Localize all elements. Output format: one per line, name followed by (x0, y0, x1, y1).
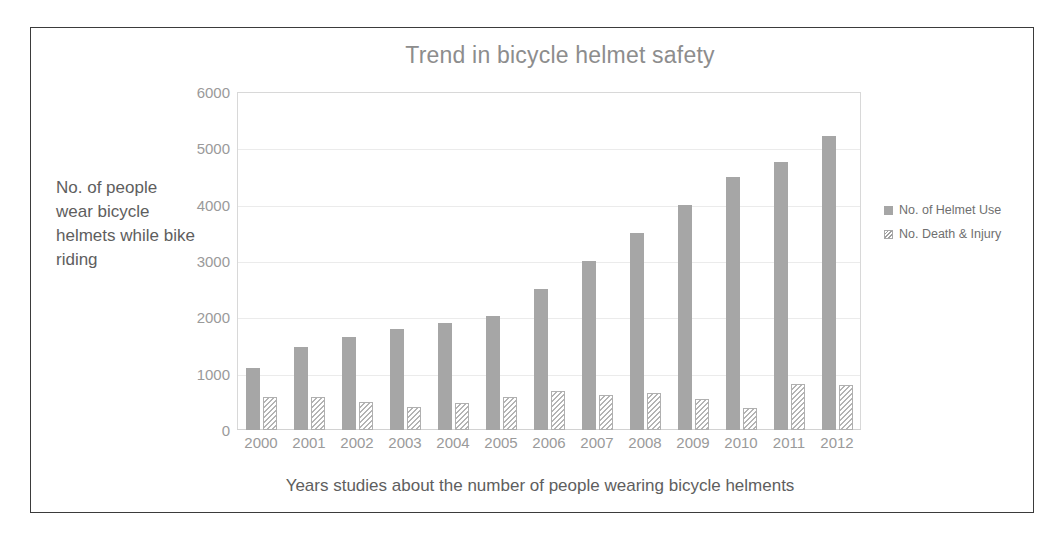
bar-death-injury[interactable] (695, 399, 709, 430)
x-axis-tick-label: 2002 (333, 434, 381, 451)
bar-helmet-use[interactable] (678, 205, 692, 430)
x-axis-tick-label: 2003 (381, 434, 429, 451)
bar-group (813, 92, 861, 430)
y-axis-tick-label: 2000 (184, 309, 230, 326)
bar-helmet-use[interactable] (390, 329, 404, 430)
bar-helmet-use[interactable] (246, 368, 260, 430)
bar-death-injury[interactable] (647, 393, 661, 430)
x-axis-tick-label: 2012 (813, 434, 861, 451)
chart-page: Trend in bicycle helmet safety 010002000… (0, 0, 1064, 546)
bars-layer (237, 92, 861, 430)
bar-death-injury[interactable] (791, 384, 805, 430)
solid-gray-swatch-icon (884, 206, 893, 215)
x-axis-tick-labels: 2000200120022003200420052006200720082009… (237, 434, 861, 458)
y-axis-tick-label: 5000 (184, 140, 230, 157)
x-axis-tick-label: 2005 (477, 434, 525, 451)
bar-helmet-use[interactable] (774, 162, 788, 430)
bar-death-injury[interactable] (599, 395, 613, 430)
bar-group (333, 92, 381, 430)
bar-helmet-use[interactable] (294, 347, 308, 430)
bar-group (285, 92, 333, 430)
x-axis-tick-label: 2000 (237, 434, 285, 451)
bar-helmet-use[interactable] (486, 316, 500, 430)
x-axis-title: Years studies about the number of people… (180, 476, 900, 496)
bar-death-injury[interactable] (503, 397, 517, 430)
bar-group (237, 92, 285, 430)
legend-item-label: No. of Helmet Use (899, 203, 1001, 217)
y-axis-tick-label: 0 (184, 422, 230, 439)
bar-helmet-use[interactable] (822, 136, 836, 430)
bar-death-injury[interactable] (743, 408, 757, 430)
bar-group (429, 92, 477, 430)
hatched-swatch-icon (884, 230, 893, 239)
legend-item-label: No. Death & Injury (899, 227, 1001, 241)
gridline (238, 431, 860, 432)
bar-helmet-use[interactable] (342, 337, 356, 430)
chart-legend: No. of Helmet UseNo. Death & Injury (884, 199, 1054, 247)
x-axis-tick-label: 2009 (669, 434, 717, 451)
bar-group (717, 92, 765, 430)
x-axis-tick-label: 2001 (285, 434, 333, 451)
y-axis-title: No. of people wear bicycle helmets while… (56, 176, 196, 272)
legend-item[interactable]: No. Death & Injury (884, 223, 1054, 245)
bar-group (381, 92, 429, 430)
bar-death-injury[interactable] (839, 385, 853, 430)
x-axis-tick-label: 2008 (621, 434, 669, 451)
chart-title: Trend in bicycle helmet safety (260, 42, 860, 69)
legend-item[interactable]: No. of Helmet Use (884, 199, 1054, 221)
x-axis-tick-label: 2006 (525, 434, 573, 451)
bar-death-injury[interactable] (551, 391, 565, 430)
bar-death-injury[interactable] (455, 403, 469, 430)
x-axis-tick-label: 2007 (573, 434, 621, 451)
bar-helmet-use[interactable] (582, 261, 596, 430)
bar-group (621, 92, 669, 430)
bar-helmet-use[interactable] (726, 177, 740, 430)
x-axis-tick-label: 2004 (429, 434, 477, 451)
bar-group (525, 92, 573, 430)
bar-group (765, 92, 813, 430)
x-axis-tick-label: 2010 (717, 434, 765, 451)
bar-group (573, 92, 621, 430)
bar-group (669, 92, 717, 430)
bar-death-injury[interactable] (311, 397, 325, 430)
bar-death-injury[interactable] (263, 397, 277, 430)
y-axis-tick-label: 1000 (184, 365, 230, 382)
bar-group (477, 92, 525, 430)
y-axis-tick-label: 6000 (184, 84, 230, 101)
bar-death-injury[interactable] (359, 402, 373, 430)
bar-death-injury[interactable] (407, 407, 421, 430)
bar-helmet-use[interactable] (630, 233, 644, 430)
bar-helmet-use[interactable] (534, 289, 548, 430)
bar-helmet-use[interactable] (438, 323, 452, 430)
x-axis-tick-label: 2011 (765, 434, 813, 451)
